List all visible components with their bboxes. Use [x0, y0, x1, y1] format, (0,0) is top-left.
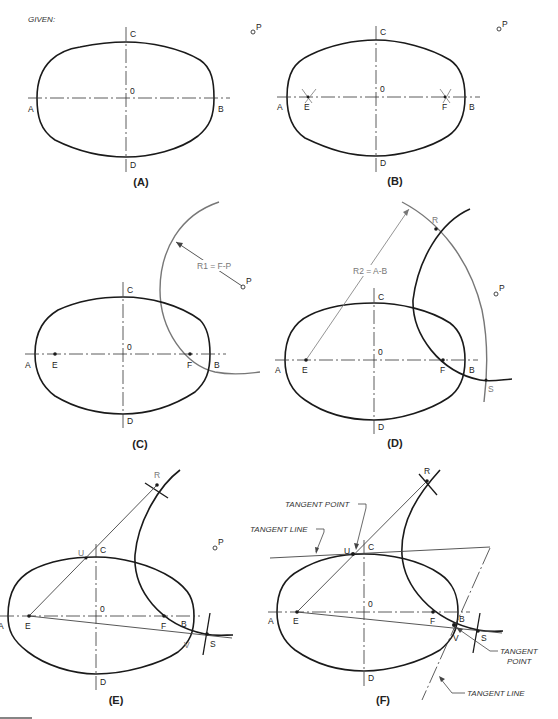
panel-d: R2 = A-B R S P C D A B 0 E F (D): [275, 202, 512, 449]
point-e-marker: [53, 352, 57, 356]
panel-a: GIVEN: C D A B 0 P (A): [28, 15, 262, 188]
panel-c: R1 = F-P P C D A B 0 E F (C): [25, 202, 260, 450]
line-e-r: [29, 485, 157, 616]
point-s-marker: [476, 629, 480, 633]
tangent-point-top-label: TANGENT POINT: [285, 500, 350, 509]
point-a-label: A: [28, 104, 34, 114]
point-o-label: 0: [380, 84, 385, 94]
point-s-marker: [485, 379, 488, 382]
panel-e: R S U V P C D A B 0 E F (E): [0, 470, 233, 718]
point-r-label: R: [432, 215, 438, 225]
point-c-label: C: [100, 545, 106, 555]
point-s-marker: [205, 632, 209, 636]
point-p-marker: [497, 27, 501, 31]
panel-f-caption: (F): [376, 694, 390, 706]
point-o-label: 0: [368, 599, 373, 609]
point-p-label: P: [256, 22, 262, 32]
point-p-marker: [213, 546, 217, 550]
point-p-label: P: [246, 276, 252, 286]
line-e-s: [29, 616, 232, 638]
panel-b-caption: (B): [387, 175, 403, 187]
panel-c-caption: (C): [132, 438, 148, 450]
point-e-marker: [304, 358, 308, 362]
point-b-label: B: [218, 104, 224, 114]
tangent-line-top-label: TANGENT LINE: [250, 525, 308, 534]
point-e-label: E: [302, 365, 308, 375]
point-r-marker: [425, 479, 429, 483]
radius-arrowhead: [176, 242, 183, 248]
point-o-label: 0: [130, 86, 135, 96]
radius-r1-label: R1 = F-P: [197, 261, 232, 271]
point-b-label: B: [469, 365, 475, 375]
leader-arrowhead: [354, 543, 359, 550]
panel-d-arc-r1: [413, 209, 512, 381]
point-c-label: C: [378, 292, 384, 302]
panel-f: R S U V C D A B 0 E F TANGENT POINT TANG…: [250, 466, 539, 706]
point-e-label: E: [52, 360, 58, 370]
point-f-label: F: [440, 365, 445, 375]
arc-intersection-tick-s: [473, 613, 480, 653]
tangent-line-bottom-label: TANGENT LINE: [467, 689, 525, 698]
point-r-label: R: [424, 466, 430, 476]
point-r-marker: [434, 227, 438, 231]
point-f-label: F: [430, 616, 435, 626]
point-f-label: F: [161, 621, 166, 631]
point-r-marker: [155, 483, 159, 487]
point-a-label: A: [275, 365, 281, 375]
panel-b: C D A B 0 E F P (B): [277, 19, 508, 187]
point-e-cross-arcs: [302, 89, 316, 103]
tangent-line-top: [270, 547, 490, 558]
point-d-label: D: [100, 677, 106, 687]
tangent-line-bottom-leader: [440, 678, 465, 693]
point-p-marker: [241, 285, 245, 289]
point-b-label: B: [181, 619, 187, 629]
tangent-point-u-marker: [351, 552, 355, 556]
panel-a-caption: (A): [133, 176, 149, 188]
panel-d-caption: (D): [387, 437, 403, 449]
point-v-label: V: [184, 640, 190, 650]
point-u-label: U: [344, 546, 350, 556]
point-f-cross-arcs: [440, 89, 451, 103]
point-c-label: C: [127, 285, 133, 295]
point-c-label: C: [380, 27, 386, 37]
tangent-point-bottom-label-2: POINT: [507, 657, 533, 666]
radius-arrowhead: [403, 209, 409, 216]
tangent-point-v-marker: [452, 623, 456, 627]
point-f-marker: [162, 614, 166, 618]
point-f-label: F: [187, 360, 192, 370]
point-b-label: B: [459, 614, 465, 624]
point-d-label: D: [130, 160, 136, 170]
panel-a-ellipse: [37, 42, 214, 157]
point-f-marker: [431, 610, 435, 614]
point-p-label: P: [499, 283, 505, 293]
tangent-point-bottom-label-1: TANGENT: [500, 647, 539, 656]
line-e-s: [297, 612, 502, 633]
point-e-label: E: [304, 102, 310, 112]
point-e-marker: [295, 610, 299, 614]
point-e-marker: [27, 614, 31, 618]
panel-d-radius-leader: [306, 209, 409, 360]
point-f-marker: [188, 352, 192, 356]
point-b-label: B: [469, 102, 475, 112]
point-a-label: A: [0, 621, 4, 631]
point-o-label: 0: [100, 604, 105, 614]
point-f-marker: [441, 358, 445, 362]
point-s-label: S: [481, 633, 487, 643]
leader-arrowhead: [315, 547, 319, 554]
point-a-label: A: [268, 616, 274, 626]
point-c-label: C: [368, 542, 374, 552]
point-s-label: S: [210, 639, 216, 649]
point-p-marker: [251, 30, 255, 34]
point-b-label: B: [214, 360, 220, 370]
point-d-label: D: [380, 158, 386, 168]
panel-e-arc-r1: [135, 470, 233, 635]
panel-d-ellipse: [285, 303, 465, 420]
point-p-marker: [494, 292, 498, 296]
point-u-label: U: [78, 548, 84, 558]
point-o-label: 0: [127, 342, 132, 352]
point-v-label: V: [453, 633, 459, 643]
point-o-label: 0: [378, 347, 383, 357]
point-r-label: R: [154, 470, 160, 480]
given-label: GIVEN:: [28, 15, 55, 24]
point-c-label: C: [130, 29, 136, 39]
